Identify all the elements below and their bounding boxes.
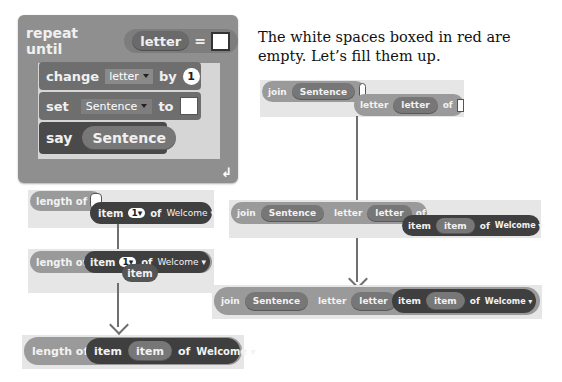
letter-variable[interactable]: letter	[132, 31, 189, 51]
empty-slot[interactable]	[457, 99, 464, 112]
list-dropdown[interactable]: Welcome ▾	[196, 346, 255, 357]
list-dropdown[interactable]: Welcome ▾	[166, 208, 215, 218]
caption-line-1: The white spaces boxed in red are	[258, 28, 548, 47]
repeat-until-label: repeat until	[26, 25, 112, 57]
item-of-block[interactable]: item item of Welcome ▾	[392, 289, 536, 313]
equals-sign: =	[194, 33, 206, 49]
sentence-variable[interactable]: Sentence	[292, 83, 355, 100]
letter-of-block[interactable]: letter letter of	[354, 94, 464, 116]
sentence-variable[interactable]: Sentence	[261, 205, 324, 222]
arrow-down-icon	[109, 315, 129, 335]
change-variable-dropdown[interactable]: letter	[105, 69, 153, 84]
empty-slot[interactable]	[211, 32, 230, 51]
repeat-until-block[interactable]: repeat until letter = change letter by 1…	[18, 15, 238, 183]
list-dropdown[interactable]: Welcome ▾	[485, 297, 533, 306]
set-block[interactable]: set Sentence to	[39, 92, 201, 120]
join-block[interactable]: join Sentence	[262, 81, 366, 102]
say-block[interactable]: say Sentence	[39, 122, 167, 154]
caption-line-2: empty. Let’s fill them up.	[258, 47, 548, 66]
letter-variable[interactable]: letter	[393, 97, 437, 114]
repeat-header: repeat until letter =	[26, 25, 238, 57]
item-variable[interactable]: item	[128, 341, 172, 361]
chevron-down-icon	[141, 104, 147, 108]
item-variable[interactable]: item	[436, 218, 475, 234]
empty-slot[interactable]	[180, 97, 198, 115]
sentence-variable[interactable]: Sentence	[82, 126, 176, 150]
say-label: say	[46, 130, 72, 146]
connector-line	[356, 116, 358, 206]
dragged-item-variable[interactable]: item	[122, 264, 158, 282]
equals-operator[interactable]: letter =	[124, 29, 238, 53]
item-variable[interactable]: item	[426, 292, 465, 310]
index-dropdown[interactable]: 1▾	[128, 208, 145, 218]
loop-arrow-icon: ↲	[221, 165, 232, 180]
letter-variable[interactable]: letter	[351, 292, 395, 311]
chevron-down-icon	[143, 74, 149, 78]
set-label: set	[46, 99, 69, 114]
item-of-block[interactable]: item 1▾ of Welcome ▾	[90, 202, 212, 224]
change-label: change	[46, 69, 99, 84]
instruction-caption: The white spaces boxed in red are empty.…	[258, 28, 548, 66]
list-dropdown[interactable]: Welcome ▾	[495, 221, 543, 230]
item-of-block[interactable]: item item of Welcome ▾	[86, 338, 240, 364]
to-label: to	[158, 99, 173, 114]
change-block[interactable]: change letter by 1	[39, 62, 201, 90]
item-of-block[interactable]: item item of Welcome ▾	[402, 215, 540, 236]
join-block[interactable]: join Sentence letter letter of	[231, 202, 427, 224]
list-dropdown[interactable]: Welcome ▾	[157, 257, 206, 267]
by-label: by	[159, 69, 177, 84]
sentence-variable[interactable]: Sentence	[245, 292, 308, 311]
by-value-input[interactable]: 1	[183, 68, 200, 85]
set-variable-dropdown[interactable]: Sentence	[81, 99, 153, 114]
